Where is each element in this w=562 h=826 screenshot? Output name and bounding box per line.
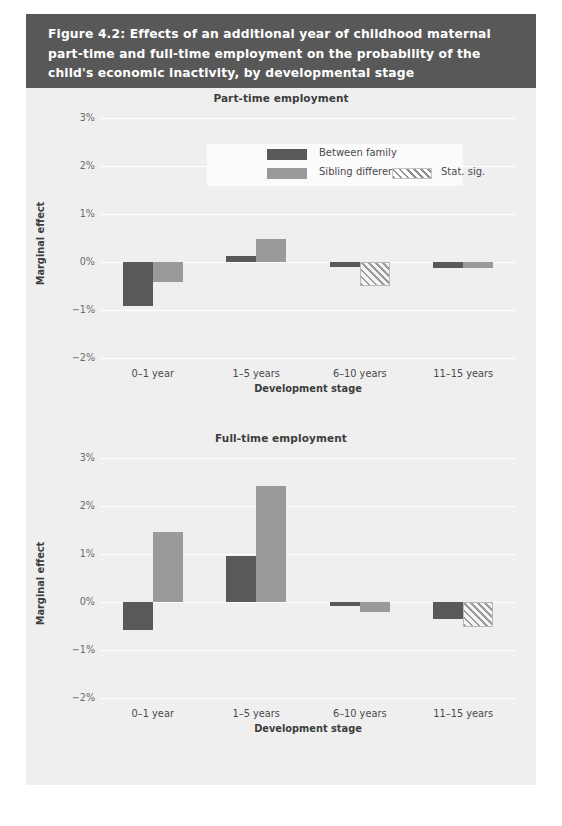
gridline xyxy=(101,358,515,359)
bar xyxy=(433,602,463,619)
bar xyxy=(226,556,256,602)
bar xyxy=(463,602,493,627)
legend-row-sibling-difference: Sibling difference Stat. sig. xyxy=(207,165,463,181)
legend-label-between-family: Between family xyxy=(319,147,397,158)
x-axis-tick-label: 1–5 years xyxy=(204,368,308,379)
chart-full-time: Full-time employment Marginal effect 3%2… xyxy=(26,432,536,732)
y-axis-tick-label: 0% xyxy=(43,596,95,607)
y-axis-tick-label: 1% xyxy=(43,548,95,559)
x-axis-title-part-time: Development stage xyxy=(101,383,515,394)
y-axis-tick-label: −1% xyxy=(43,644,95,655)
x-axis-title-full-time: Development stage xyxy=(101,723,515,734)
y-axis-tick-label: −2% xyxy=(43,352,95,363)
x-axis-labels-part-time: 0–1 year1–5 years6–10 years11–15 years xyxy=(101,368,515,384)
legend-swatch-sibling-difference xyxy=(267,168,307,179)
legend-swatch-between-family xyxy=(267,149,307,160)
x-axis-tick-label: 0–1 year xyxy=(101,708,205,719)
y-axis-tick-label: 2% xyxy=(43,500,95,511)
chart-title-part-time: Part-time employment xyxy=(26,92,536,104)
chart-part-time: Part-time employment Marginal effect 3%2… xyxy=(26,92,536,392)
y-axis-tick-label: 3% xyxy=(43,112,95,123)
figure-root: Figure 4.2: Effects of an additional yea… xyxy=(0,0,562,826)
legend-label-stat-sig: Stat. sig. xyxy=(441,166,485,177)
bar xyxy=(256,486,286,602)
figure-panel: Part-time employment Marginal effect 3%2… xyxy=(26,88,536,785)
plot-area-full-time xyxy=(101,458,515,698)
bar xyxy=(153,532,183,602)
x-axis-tick-label: 1–5 years xyxy=(204,708,308,719)
x-axis-labels-full-time: 0–1 year1–5 years6–10 years11–15 years xyxy=(101,708,515,724)
figure-caption-bar: Figure 4.2: Effects of an additional yea… xyxy=(26,14,536,88)
bar xyxy=(433,262,463,268)
legend-swatch-stat-sig xyxy=(392,168,432,179)
y-axis-tick-label: −1% xyxy=(43,304,95,315)
y-axis-tick-label: −2% xyxy=(43,692,95,703)
y-axis-tick-label: 1% xyxy=(43,208,95,219)
bar xyxy=(330,262,360,267)
figure-caption-text: Figure 4.2: Effects of an additional yea… xyxy=(48,25,514,84)
bar xyxy=(330,602,360,606)
chart-legend: Between family Sibling difference Stat. … xyxy=(207,144,463,186)
gridline xyxy=(101,650,515,651)
bar xyxy=(360,262,390,286)
gridline xyxy=(101,506,515,507)
chart-title-full-time: Full-time employment xyxy=(26,432,536,444)
bar xyxy=(463,262,493,268)
bar xyxy=(153,262,183,282)
bar xyxy=(226,256,256,262)
x-axis-tick-label: 0–1 year xyxy=(101,368,205,379)
gridline xyxy=(101,310,515,311)
x-axis-tick-label: 11–15 years xyxy=(411,708,515,719)
bar xyxy=(256,239,286,262)
gridline xyxy=(101,214,515,215)
bar xyxy=(123,602,153,630)
y-axis-tick-label: 0% xyxy=(43,256,95,267)
x-axis-tick-label: 6–10 years xyxy=(308,708,412,719)
bar xyxy=(360,602,390,612)
y-axis-tick-label: 3% xyxy=(43,452,95,463)
gridline xyxy=(101,458,515,459)
x-axis-tick-label: 11–15 years xyxy=(411,368,515,379)
bar xyxy=(123,262,153,306)
legend-row-between-family: Between family xyxy=(207,146,463,162)
gridline xyxy=(101,118,515,119)
x-axis-tick-label: 6–10 years xyxy=(308,368,412,379)
y-axis-ticks-part-time: 3%2%1%0%−1%−2% xyxy=(37,118,95,358)
gridline xyxy=(101,698,515,699)
y-axis-ticks-full-time: 3%2%1%0%−1%−2% xyxy=(37,458,95,698)
y-axis-tick-label: 2% xyxy=(43,160,95,171)
